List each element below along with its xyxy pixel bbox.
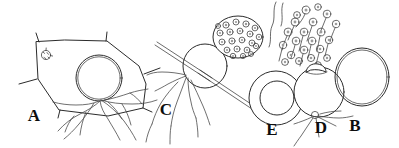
panel-d-label: D — [315, 118, 327, 137]
panel-c-label: C — [160, 100, 172, 119]
figure-illustration: A — [0, 0, 399, 148]
panel-e-label: E — [266, 120, 277, 139]
panel-a-label: A — [28, 106, 41, 125]
figure-canvas: A — [0, 0, 399, 148]
panel-b-label: B — [349, 116, 360, 135]
